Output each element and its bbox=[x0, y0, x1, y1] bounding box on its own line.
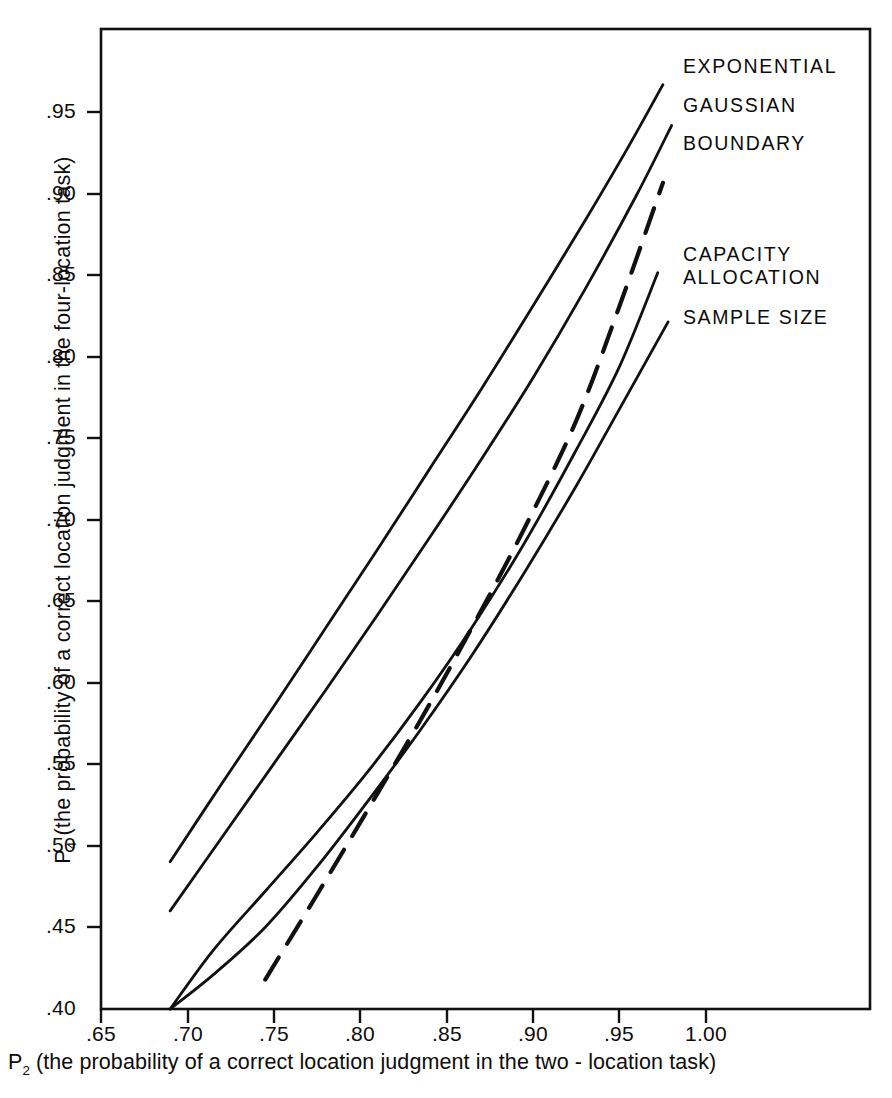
legend-label-boundary: BOUNDARY bbox=[683, 132, 806, 155]
legend-label-capacity-allocation: CAPACITY ALLOCATION bbox=[683, 243, 821, 289]
x-axis-ticks bbox=[101, 1009, 706, 1023]
legend-label-sample-size: SAMPLE SIZE bbox=[683, 306, 828, 329]
plot-frame bbox=[101, 29, 870, 1009]
y-tick-label: .80 bbox=[6, 344, 76, 368]
x-tick-label: .80 bbox=[315, 1022, 405, 1046]
y-tick-label: .70 bbox=[6, 507, 76, 531]
series-line-boundary bbox=[265, 183, 663, 980]
y-tick-label: .40 bbox=[6, 996, 76, 1020]
x-tick-label: 1.00 bbox=[661, 1022, 751, 1046]
x-tick-label: .90 bbox=[488, 1022, 578, 1046]
x-tick-label: .95 bbox=[574, 1022, 664, 1046]
y-tick-label: .50 bbox=[6, 833, 76, 857]
legend-label-exponential: EXPONENTIAL bbox=[683, 55, 837, 78]
y-axis-ticks bbox=[87, 112, 101, 927]
x-tick-label: .75 bbox=[229, 1022, 319, 1046]
legend-label-gaussian: GAUSSIAN bbox=[683, 94, 797, 117]
x-tick-label: .70 bbox=[143, 1022, 233, 1046]
series-line-capacity-allocation bbox=[170, 273, 658, 1009]
y-tick-label: .45 bbox=[6, 914, 76, 938]
series-line-sample-size bbox=[170, 322, 668, 1009]
y-tick-label: .75 bbox=[6, 425, 76, 449]
series-line-gaussian bbox=[170, 126, 671, 911]
y-tick-label: .85 bbox=[6, 262, 76, 286]
data-curves bbox=[170, 85, 671, 1009]
series-line-exponential bbox=[170, 85, 663, 862]
chart-canvas bbox=[0, 0, 892, 1098]
x-tick-label: .85 bbox=[402, 1022, 492, 1046]
figure-panel: .95 .90 .85 .80 .75 .70 .65 .60 .55 .50 … bbox=[0, 0, 892, 1098]
y-tick-label: .55 bbox=[6, 751, 76, 775]
y-tick-label: .65 bbox=[6, 588, 76, 612]
y-tick-label: .90 bbox=[6, 181, 76, 205]
y-tick-label: .60 bbox=[6, 670, 76, 694]
plot-border bbox=[101, 29, 870, 1009]
y-tick-label: .95 bbox=[6, 99, 76, 123]
x-tick-label: .65 bbox=[56, 1022, 146, 1046]
